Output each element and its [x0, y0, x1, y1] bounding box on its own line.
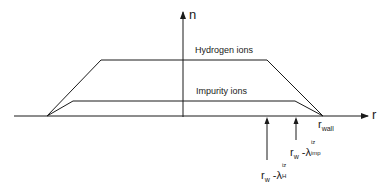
- r-w-lambda-imp-label: rw -λizimp: [290, 146, 321, 158]
- rw-imp-sup: iz: [311, 139, 315, 145]
- impurity-ions-label: Impurity ions: [196, 87, 247, 96]
- marker-arrowhead-h: [265, 117, 270, 124]
- rw-h-sub: H: [282, 173, 286, 179]
- rw-imp-sub: imp: [311, 150, 321, 156]
- rw-imp-w: w: [294, 153, 299, 160]
- density-profile-diagram: [0, 0, 390, 191]
- r-axis-label: r: [372, 108, 376, 121]
- r-wall-sub: wall: [322, 125, 334, 132]
- rw-h-w: w: [265, 176, 270, 183]
- hydrogen-ions-label: Hydrogen ions: [195, 46, 253, 55]
- r-w-lambda-h-label: rw -λizH: [261, 169, 292, 181]
- impurity-ions-curve: [47, 101, 323, 116]
- rw-h-sup: iz: [282, 162, 286, 168]
- r-wall-label: rwall: [318, 119, 334, 130]
- hydrogen-ions-curve: [47, 60, 323, 116]
- marker-arrowhead-imp: [294, 117, 299, 124]
- n-axis-label: n: [189, 8, 196, 21]
